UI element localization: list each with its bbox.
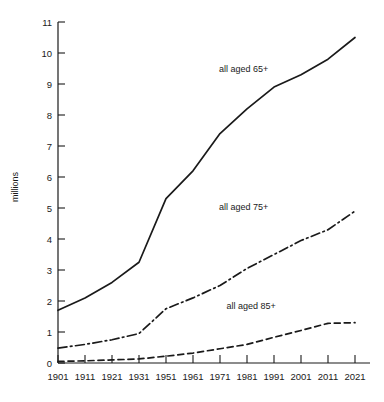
- x-axis-tick-label: 2001: [290, 371, 311, 382]
- y-axis-title: millions: [10, 172, 20, 203]
- x-axis-tick-label: 1931: [128, 371, 149, 382]
- y-axis-tick-label: 5: [47, 203, 52, 214]
- y-axis-tick-label: 1: [47, 327, 52, 338]
- series-line-all-aged-85-: [58, 323, 355, 362]
- x-axis-tick-label: 1991: [263, 371, 284, 382]
- y-axis-tick-label: 6: [47, 172, 52, 183]
- y-axis-tick-label: 11: [42, 17, 52, 28]
- x-axis-tick-label: 1981: [236, 371, 257, 382]
- series-annotation-2: all aged 75+: [219, 202, 268, 212]
- x-axis-tick-label: 1961: [182, 371, 203, 382]
- y-axis-tick-label: 7: [47, 141, 52, 152]
- series-line-all-aged-65-: [58, 38, 355, 311]
- x-axis-tick-label: 2011: [318, 371, 338, 382]
- x-axis-tick-label: 1971: [209, 371, 230, 382]
- x-axis-tick-label: 1901: [47, 371, 68, 382]
- y-axis-tick-label: 8: [47, 110, 52, 121]
- y-axis-tick-label: 10: [41, 48, 52, 59]
- series-annotation-3: all aged 85+: [226, 301, 275, 311]
- series-annotation-1: all aged 65+: [219, 64, 268, 74]
- y-axis-tick-label: 3: [47, 265, 52, 276]
- x-axis-tick-label: 2021: [344, 371, 365, 382]
- x-axis-tick-label: 1921: [101, 371, 122, 382]
- y-axis-tick-label: 9: [47, 79, 52, 90]
- y-axis-tick-label: 4: [47, 234, 52, 245]
- chart-container: 0123456789101119011911192119311951196119…: [0, 0, 384, 402]
- y-axis-tick-label: 2: [47, 296, 52, 307]
- x-axis-tick-label: 1911: [75, 371, 95, 382]
- x-axis-tick-label: 1951: [155, 371, 176, 382]
- line-chart: 0123456789101119011911192119311951196119…: [0, 0, 384, 402]
- y-axis-tick-label: 0: [47, 358, 52, 369]
